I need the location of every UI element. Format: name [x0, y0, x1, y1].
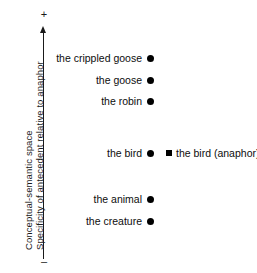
data-point-label: the robin — [48, 94, 142, 108]
data-point-label: the goose — [48, 73, 142, 87]
square-marker-icon — [166, 150, 172, 156]
circle-marker-icon — [147, 55, 154, 62]
data-row: the creature — [48, 214, 154, 228]
circle-marker-icon — [147, 77, 154, 84]
data-point-label: the crippled goose — [48, 51, 142, 65]
data-row-bird: the bird the bird (anaphor) — [48, 146, 257, 160]
data-row: the animal — [48, 192, 154, 206]
circle-marker-icon — [147, 98, 154, 105]
circle-marker-icon — [147, 196, 154, 203]
conceptual-semantic-space-figure: + – Conceptual-semantic space Specificit… — [0, 0, 257, 273]
data-row: the robin — [48, 94, 154, 108]
data-point-label: the bird — [48, 146, 142, 160]
data-point-label: the animal — [48, 192, 142, 206]
data-point-label: the creature — [48, 214, 142, 228]
anaphor-label: the bird (anaphor) — [176, 146, 257, 160]
circle-marker-icon — [147, 150, 154, 157]
circle-marker-icon — [147, 218, 154, 225]
data-row: the goose — [48, 73, 154, 87]
data-point-group: the crippled goose the goose the robin t… — [0, 0, 257, 273]
data-row: the crippled goose — [48, 51, 154, 65]
